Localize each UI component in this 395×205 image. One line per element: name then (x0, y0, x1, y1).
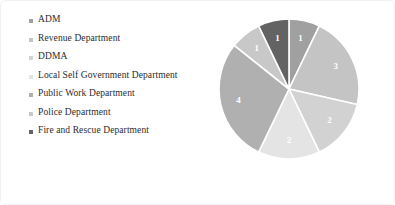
legend-item[interactable]: DDMA (29, 51, 189, 63)
pie-slice-value-label: 2 (327, 115, 332, 125)
pie-slice-value-label: 4 (236, 95, 241, 105)
pie-slice-value-label: 2 (287, 135, 292, 145)
pie-slice-value-label: 1 (254, 43, 259, 53)
legend-swatch-icon (29, 93, 33, 97)
legend-item-label: Police Department (38, 107, 111, 119)
legend-swatch-icon (29, 38, 33, 42)
legend-item[interactable]: Police Department (29, 107, 189, 119)
pie-slice-value-label: 3 (333, 61, 338, 71)
legend-swatch-icon (29, 19, 33, 23)
legend-item[interactable]: Fire and Rescue Department (29, 125, 189, 137)
chart-legend: ADMRevenue DepartmentDDMALocal Self Gove… (29, 14, 189, 144)
legend-item-label: DDMA (38, 51, 67, 63)
legend-swatch-icon (29, 130, 33, 134)
pie-chart-plot-area: 1322411 (218, 18, 360, 160)
legend-swatch-icon (29, 112, 33, 116)
legend-item-label: Public Work Department (38, 88, 135, 100)
legend-item[interactable]: Revenue Department (29, 33, 189, 45)
pie-slice-value-label: 1 (298, 33, 303, 43)
pie-chart-figure: ADMRevenue DepartmentDDMALocal Self Gove… (0, 0, 395, 205)
legend-item[interactable]: Local Self Government Department (29, 70, 189, 82)
pie-chart-svg: 1322411 (218, 18, 360, 160)
legend-item-label: Fire and Rescue Department (38, 125, 149, 137)
legend-item-label: Revenue Department (38, 33, 120, 45)
pie-slice-value-label: 1 (275, 33, 280, 43)
legend-item-label: ADM (38, 14, 60, 26)
legend-item-label: Local Self Government Department (38, 70, 178, 82)
legend-swatch-icon (29, 56, 33, 60)
legend-swatch-icon (29, 75, 33, 79)
legend-item[interactable]: ADM (29, 14, 189, 26)
legend-item[interactable]: Public Work Department (29, 88, 189, 100)
